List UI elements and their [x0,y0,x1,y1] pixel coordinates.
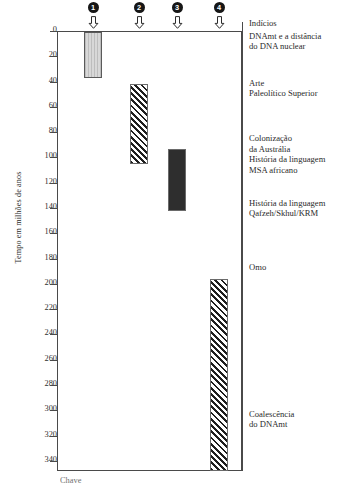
annotation: DNAmt e a distânciado DNA nuclear [249,31,350,52]
y-tick-label: 100 [13,151,57,160]
annotation-line: Arte [249,78,350,89]
bar-1 [84,32,102,78]
annotation: Coalescênciado DNAmt [249,409,350,430]
arrow-down-icon [88,15,99,28]
y-tick-mark [50,259,57,260]
y-tick-label: 140 [13,202,57,211]
marker-badge: 3 [172,2,183,13]
y-tick-mark [50,183,57,184]
marker-4[interactable]: 4 [208,2,230,28]
y-tick-label: 40 [13,76,57,85]
y-tick-label: 200 [13,278,57,287]
marker-3[interactable]: 3 [166,2,188,28]
y-tick-mark [50,410,57,411]
y-tick-mark [50,132,57,133]
y-tick-mark [50,233,57,234]
y-tick-label: 280 [13,379,57,388]
annotation-line: MSA africano [249,165,350,176]
y-tick-label: 120 [13,177,57,186]
arrow-down-icon [214,15,225,28]
y-tick-label: 20 [13,50,57,59]
y-tick-mark [50,284,57,285]
annotation-line: Colonização [249,133,350,144]
y-tick-label: 0 [13,25,57,34]
y-tick-mark [50,309,57,310]
y-tick-mark [50,82,57,83]
annotation: Omo [249,262,350,273]
y-axis-title: Tempo em milhões de anos [14,143,23,293]
y-tick-mark [50,56,57,57]
y-tick-label: 60 [13,101,57,110]
marker-1[interactable]: 1 [82,2,104,28]
arrow-down-icon [134,15,145,28]
y-tick-mark [50,334,57,335]
annotation-line: Omo [249,262,350,273]
y-tick-label: 340 [13,455,57,464]
bar-2 [130,84,148,164]
y-tick-label: 260 [13,354,57,363]
annotation-line: do DNAmt [249,419,350,430]
y-tick-mark [50,31,57,32]
y-tick-mark [50,107,57,108]
annotation-line: Coalescência [249,409,350,420]
annotation-line: DNAmt e a distância [249,31,350,42]
annotations-title: Indícios [249,18,277,28]
annotation: História da linguagemQafzeh/Skhul/KRM [249,198,350,219]
y-tick-mark [50,157,57,158]
y-tick-mark [50,208,57,209]
y-tick-mark [50,461,57,462]
marker-badge: 2 [134,2,145,13]
y-tick-label: 320 [13,430,57,439]
annotation-line: do DNA nuclear [249,41,350,52]
notes-divider [242,22,243,471]
y-tick-mark [50,360,57,361]
marker-2[interactable]: 2 [128,2,150,28]
chart-canvas: Tempo em milhões de anos 020406080100120… [0,0,350,488]
y-tick-label: 160 [13,227,57,236]
y-tick-label: 180 [13,253,57,262]
annotation: ArtePaleolítico Superior [249,78,350,99]
annotation-line: Qafzeh/Skhul/KRM [249,208,350,219]
marker-badge: 4 [214,2,225,13]
y-tick-label: 240 [13,328,57,337]
annotation-line: Paleolítico Superior [249,88,350,99]
annotation-line: da Austrália [249,144,350,155]
bar-3 [168,149,186,211]
chart-caption: Chave [60,476,180,487]
annotation-line: História da linguagem [249,154,350,165]
arrow-down-icon [172,15,183,28]
y-tick-label: 80 [13,126,57,135]
bar-4 [210,279,228,471]
y-tick-label: 220 [13,303,57,312]
y-tick-label: 300 [13,404,57,413]
annotation: Colonizaçãoda AustráliaHistória da lingu… [249,133,350,175]
annotation-line: História da linguagem [249,198,350,209]
marker-badge: 1 [88,2,99,13]
y-tick-mark [50,436,57,437]
y-tick-mark [50,385,57,386]
